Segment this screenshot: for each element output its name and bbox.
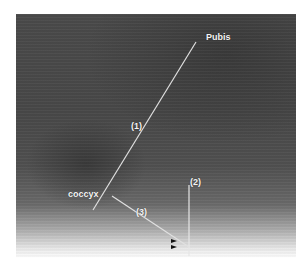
annotation-overlay: [0, 0, 308, 269]
label-coccyx: coccyx: [68, 189, 99, 199]
line-3-coccyx-to-perineum: [112, 196, 189, 247]
label-line-1: (1): [131, 121, 142, 131]
label-pubis: Pubis: [206, 32, 231, 42]
label-line-3: (3): [136, 207, 147, 217]
double-arrowhead-icon: [171, 239, 177, 249]
line-1-pubis-to-coccyx: [93, 42, 196, 210]
label-line-2: (2): [190, 177, 201, 187]
